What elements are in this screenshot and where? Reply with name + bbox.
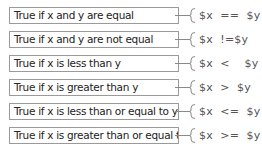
brace-icon [189,128,195,143]
operator-row-greater-or-equal: True if x is greater than or equal to y … [9,127,262,144]
description-box: True if x is less than or equal to y [9,103,179,120]
operator-row-equal: True if x and y are equal $x == $y [9,7,262,24]
brace-icon [189,80,195,95]
description-box: True if x and y are not equal [9,31,179,48]
brace-icon [189,104,195,119]
operator-row-not-equal: True if x and y are not equal $x !=$y [9,31,262,48]
brace-icon [189,8,195,23]
description-box: True if x is less than y [9,55,179,72]
brace-icon [189,56,195,71]
connector-line [175,39,189,40]
description-box: True if x is greater than or equal to y [9,127,179,144]
connector-line [175,135,189,136]
description-box: True if x is greater than y [9,79,179,96]
operator-code: $x <= $y [199,103,260,120]
operator-code: $x > $y [199,79,251,96]
operator-code: $x == $y [199,7,260,24]
connector-line [175,15,189,16]
operator-code: $x < $y [199,55,258,72]
operator-row-greater-than: True if x is greater than y $x > $y [9,79,262,96]
operator-row-less-than: True if x is less than y $x < $y [9,55,262,72]
connector-line [175,63,189,64]
brace-icon [189,32,195,47]
description-box: True if x and y are equal [9,7,179,24]
operator-code: $x >= $y [199,127,260,144]
operator-code: $x !=$y [199,31,248,48]
connector-line [175,87,189,88]
operator-row-less-or-equal: True if x is less than or equal to y $x … [9,103,262,120]
connector-line [175,111,189,112]
